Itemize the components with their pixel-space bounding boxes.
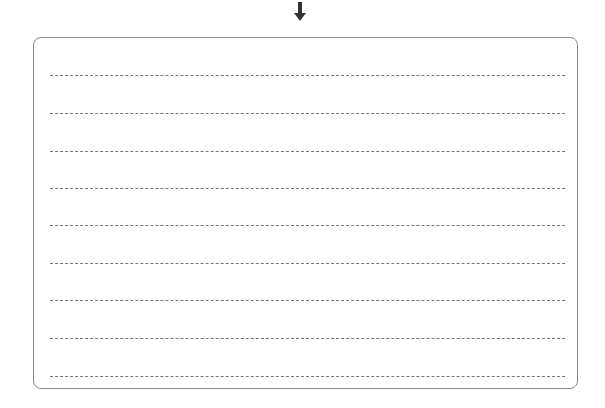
writing-line-4[interactable] <box>50 188 565 189</box>
writing-line-2[interactable] <box>50 113 565 114</box>
writing-box <box>33 37 578 389</box>
writing-line-7[interactable] <box>50 300 565 301</box>
arrow-down-icon <box>293 2 307 22</box>
writing-line-6[interactable] <box>50 263 565 264</box>
writing-line-3[interactable] <box>50 151 565 152</box>
writing-line-8[interactable] <box>50 338 565 339</box>
writing-line-1[interactable] <box>50 75 565 76</box>
writing-line-9[interactable] <box>50 376 565 377</box>
writing-line-5[interactable] <box>50 225 565 226</box>
